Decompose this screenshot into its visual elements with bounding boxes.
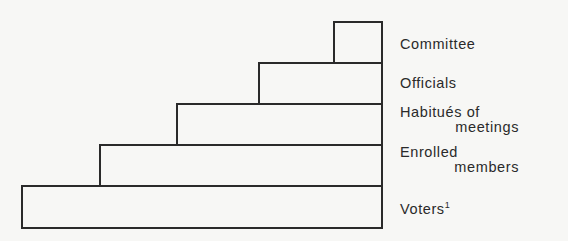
officials-box [259, 63, 382, 104]
label-voters: Voters1 [400, 198, 450, 217]
voters-box [22, 186, 382, 228]
label-habitues: Habitués of meetings [400, 105, 519, 135]
label-habitues-line1: Habitués of [400, 105, 519, 120]
footnote-marker: 1 [445, 200, 451, 210]
label-habitues-line2: meetings [400, 120, 519, 135]
enrolled-box [100, 145, 382, 186]
label-officials: Officials [400, 76, 457, 91]
label-committee: Committee [400, 37, 476, 52]
label-voters-text: Voters [400, 201, 445, 217]
label-enrolled-line2: members [400, 160, 519, 175]
label-enrolled-line1: Enrolled [400, 145, 519, 160]
committee-box [334, 22, 382, 63]
habitues-box [177, 104, 382, 145]
label-enrolled: Enrolled members [400, 145, 519, 175]
label-committee-text: Committee [400, 36, 476, 52]
label-officials-text: Officials [400, 75, 457, 91]
